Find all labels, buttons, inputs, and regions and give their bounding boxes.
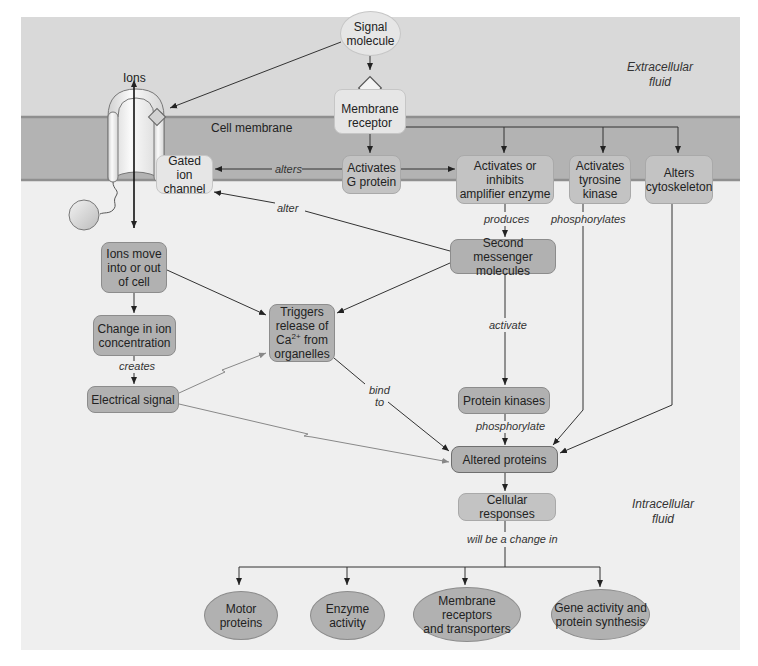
ions-move-node[interactable]: Ions move into or out of cell [101, 242, 167, 293]
alters-cytoskeleton-line2: cytoskeleton [646, 180, 713, 194]
second-messenger-line2: molecules [476, 264, 530, 278]
signal-molecule-line1: Signal [354, 20, 387, 34]
triggers-release-node[interactable]: Triggers release of Ca2+ from organelles [269, 304, 335, 362]
calcium-charge: 2+ [291, 332, 300, 341]
membrane-receptor-line2: receptor [348, 116, 392, 130]
activates-g-protein-line2: G protein [347, 175, 396, 189]
gene-activity-line1: Gene activity and [554, 601, 647, 615]
motor-proteins-node[interactable]: Motor proteins [204, 591, 278, 640]
change-in-ion-line2: concentration [98, 336, 170, 350]
cellular-responses-label: Cellular responses [461, 493, 553, 521]
membrane-receptor-line1: Membrane [341, 102, 398, 116]
activates-g-protein-node[interactable]: Activates G protein [342, 155, 401, 194]
change-in-ion-node[interactable]: Change in ion concentration [93, 315, 176, 356]
altered-proteins-node[interactable]: Altered proteins [451, 446, 558, 473]
gated-ion-channel-line2: channel [163, 182, 205, 196]
tyrosine-kinase-node[interactable]: Activates tyrosine kinase [569, 155, 631, 204]
alters-cytoskeleton-node[interactable]: Alters cytoskeleton [645, 155, 713, 204]
amplifier-enzyme-node[interactable]: Activates or inhibits amplifier enzyme [456, 155, 554, 204]
enzyme-activity-line1: Enzyme [326, 602, 369, 616]
gene-activity-node[interactable]: Gene activity and protein synthesis [551, 589, 650, 640]
extracellular-fluid-label: Extracellular fluid [615, 60, 705, 90]
gated-ion-channel-line1: Gated ion [159, 154, 210, 182]
electrical-signal-node[interactable]: Electrical signal [87, 386, 179, 413]
membrane-receptors-transporters-node[interactable]: Membrane receptors and transporters [413, 587, 521, 642]
membrane-receptors-line2: and transporters [423, 622, 510, 636]
signal-molecule-line2: molecule [346, 34, 394, 48]
change-in-ion-line1: Change in ion [97, 322, 171, 336]
enzyme-activity-node[interactable]: Enzyme activity [310, 591, 385, 640]
cellular-responses-node[interactable]: Cellular responses [458, 493, 556, 521]
enzyme-activity-line2: activity [329, 616, 366, 630]
triggers-release-line3: Ca2+ from [276, 333, 328, 347]
calcium-symbol: Ca [276, 333, 291, 347]
triggers-release-line2: release of [276, 319, 329, 333]
edge-label-alters: alters [275, 163, 302, 176]
ions-move-line2: into or out [107, 261, 160, 275]
ions-move-line3: of cell [118, 275, 149, 289]
edge-label-phosphorylates: phosphorylates [551, 213, 626, 226]
motor-proteins-line1: Motor [226, 602, 257, 616]
gene-activity-line2: protein synthesis [555, 615, 645, 629]
electrical-signal-label: Electrical signal [91, 393, 174, 407]
tyrosine-kinase-line3: kinase [583, 187, 618, 201]
alters-cytoskeleton-line1: Alters [664, 166, 695, 180]
edge-label-will-be-a-change-in: will be a change in [467, 533, 558, 546]
intracellular-fluid-label: Intracellular fluid [618, 497, 708, 527]
membrane-receptor-node[interactable]: Membrane receptor [334, 89, 406, 134]
amplifier-enzyme-line1: Activates or [474, 159, 537, 173]
ions-move-line1: Ions move [106, 247, 161, 261]
protein-kinases-node[interactable]: Protein kinases [458, 387, 550, 414]
intracellular-line1: Intracellular [618, 497, 708, 512]
motor-proteins-line2: proteins [220, 616, 263, 630]
second-messenger-node[interactable]: Second messenger molecules [450, 239, 556, 274]
tyrosine-kinase-line2: tyrosine [579, 173, 621, 187]
triggers-release-from: from [301, 333, 328, 347]
protein-kinases-label: Protein kinases [463, 394, 545, 408]
amplifier-enzyme-line2: inhibits [486, 173, 523, 187]
gated-ion-channel-node[interactable]: Gated ion channel [156, 155, 213, 194]
cell-membrane-label: Cell membrane [211, 121, 292, 135]
edge-label-phosphorylate: phosphorylate [476, 420, 545, 433]
amplifier-enzyme-line3: amplifier enzyme [460, 187, 551, 201]
extracellular-line1: Extracellular [615, 60, 705, 75]
edge-label-creates: creates [119, 360, 155, 373]
edge-label-activate: activate [489, 319, 527, 332]
channel-gate-ball-icon [69, 200, 99, 230]
edge-label-alter: alter [277, 202, 298, 215]
triggers-release-line1: Triggers [280, 305, 324, 319]
extracellular-line2: fluid [615, 75, 705, 90]
signal-molecule-node[interactable]: Signal molecule [340, 11, 401, 56]
edge-label-to: to [375, 396, 384, 409]
second-messenger-line1: Second messenger [453, 236, 553, 264]
activates-g-protein-line1: Activates [347, 161, 396, 175]
altered-proteins-label: Altered proteins [462, 453, 546, 467]
triggers-release-line4: organelles [274, 347, 329, 361]
ions-label: Ions [123, 71, 146, 85]
membrane-receptors-line1: Membrane receptors [416, 594, 518, 622]
edge-label-produces: produces [484, 213, 529, 226]
intracellular-line2: fluid [618, 512, 708, 527]
tyrosine-kinase-line1: Activates [576, 159, 625, 173]
